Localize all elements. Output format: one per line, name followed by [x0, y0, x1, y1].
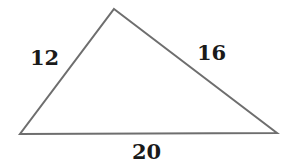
side-label-base: 20: [132, 141, 161, 163]
triangle-outline: [20, 9, 277, 134]
side-label-left: 12: [30, 47, 59, 69]
side-label-right: 16: [197, 42, 226, 64]
triangle-figure: 12 16 20: [0, 0, 291, 167]
